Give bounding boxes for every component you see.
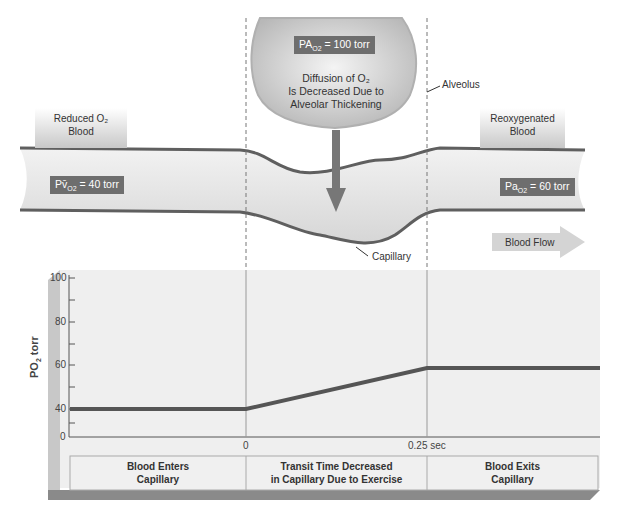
y-tick-40: 40: [55, 403, 66, 414]
diffusion-text: Diffusion of O₂ Is Decreased Due to Alve…: [276, 72, 396, 111]
y-tick-60: 60: [55, 359, 66, 370]
alveolus-label: Alveolus: [442, 78, 480, 91]
arterial-po2-box: PaO2 = 60 torr: [500, 178, 575, 196]
capillary-label: Capillary: [372, 250, 411, 263]
phase-exits: Blood ExitsCapillary: [427, 456, 598, 490]
phase-transit: Transit Time Decreasedin Capillary Due t…: [246, 456, 427, 490]
y-tick-0: 0: [60, 431, 66, 442]
y-tick-80: 80: [55, 316, 66, 327]
blood-flow-label: Blood Flow: [505, 236, 554, 249]
x-tick-025: 0.25 sec: [408, 440, 446, 451]
y-tick-100: 100: [50, 272, 67, 283]
alveolar-po2-box: PAO2 = 100 torr: [294, 36, 375, 54]
x-tick-0: 0: [243, 440, 249, 451]
y-axis-label: PO2 torr: [28, 336, 42, 378]
venous-po2-box: Pv̄O2 = 40 torr: [50, 176, 124, 194]
phase-enters: Blood EntersCapillary: [70, 456, 246, 490]
reduced-o2-blood-tab: Reduced O₂Blood: [35, 108, 127, 148]
reoxygenated-blood-tab: ReoxygenatedBlood: [480, 108, 565, 148]
